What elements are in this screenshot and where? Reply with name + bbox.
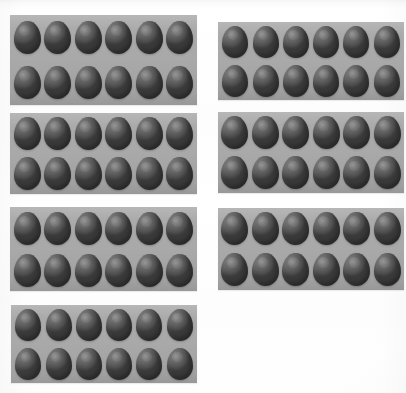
- egg: [374, 116, 401, 149]
- egg: [75, 254, 102, 287]
- egg: [222, 65, 248, 97]
- egg: [136, 254, 163, 287]
- egg: [106, 309, 132, 341]
- egg: [167, 309, 193, 341]
- egg-carton-5: [10, 207, 197, 291]
- egg: [283, 65, 309, 97]
- egg: [343, 156, 370, 189]
- egg-carton-2: [218, 22, 404, 100]
- egg: [313, 116, 340, 149]
- egg: [221, 212, 248, 245]
- egg: [166, 66, 193, 99]
- egg: [44, 212, 71, 245]
- egg: [252, 212, 279, 245]
- egg: [75, 157, 102, 190]
- egg: [313, 253, 340, 286]
- egg: [252, 116, 279, 149]
- egg: [105, 157, 132, 190]
- egg: [374, 65, 400, 97]
- egg: [75, 117, 102, 150]
- egg: [221, 156, 248, 189]
- egg: [105, 117, 132, 150]
- egg-row-top: [10, 207, 197, 249]
- egg: [46, 309, 72, 341]
- egg-row-bottom: [10, 249, 197, 291]
- egg-row-bottom: [10, 154, 197, 195]
- egg: [136, 157, 163, 190]
- egg: [222, 26, 248, 58]
- egg: [136, 66, 163, 99]
- egg: [105, 254, 132, 287]
- egg-row-top: [10, 113, 197, 154]
- egg-carton-6: [218, 208, 404, 290]
- egg: [374, 26, 400, 58]
- egg: [136, 117, 163, 150]
- egg: [14, 157, 41, 190]
- egg-row-bottom: [218, 249, 404, 290]
- egg: [374, 212, 401, 245]
- egg: [343, 65, 369, 97]
- egg-row-top: [11, 305, 197, 344]
- egg: [14, 212, 41, 245]
- egg: [105, 212, 132, 245]
- egg: [14, 66, 41, 99]
- egg: [75, 212, 102, 245]
- egg: [253, 26, 279, 58]
- egg: [343, 116, 370, 149]
- egg: [253, 65, 279, 97]
- egg: [282, 116, 309, 149]
- egg-row-top: [218, 112, 404, 153]
- egg: [136, 212, 163, 245]
- egg: [14, 117, 41, 150]
- egg: [76, 348, 102, 380]
- egg: [44, 21, 71, 54]
- egg: [44, 157, 71, 190]
- egg: [166, 117, 193, 150]
- egg: [105, 66, 132, 99]
- egg: [343, 26, 369, 58]
- egg-carton-3: [10, 113, 197, 194]
- egg: [106, 348, 132, 380]
- egg-row-top: [218, 208, 404, 249]
- egg: [282, 156, 309, 189]
- egg: [14, 254, 41, 287]
- egg: [136, 309, 162, 341]
- egg: [343, 212, 370, 245]
- egg: [166, 157, 193, 190]
- egg: [14, 21, 41, 54]
- egg: [166, 254, 193, 287]
- egg: [313, 65, 339, 97]
- egg: [313, 212, 340, 245]
- egg-cartons-scene: [0, 0, 406, 393]
- egg: [252, 253, 279, 286]
- egg-row-bottom: [10, 60, 197, 105]
- egg-carton-4: [218, 112, 404, 193]
- egg: [75, 21, 102, 54]
- egg: [44, 117, 71, 150]
- egg: [136, 348, 162, 380]
- egg: [15, 348, 41, 380]
- egg-row-top: [10, 15, 197, 60]
- egg: [374, 156, 401, 189]
- egg: [75, 66, 102, 99]
- egg: [313, 26, 339, 58]
- egg-row-bottom: [218, 61, 404, 100]
- egg: [76, 309, 102, 341]
- egg: [46, 348, 72, 380]
- egg: [221, 253, 248, 286]
- egg: [166, 212, 193, 245]
- egg: [136, 21, 163, 54]
- egg-row-top: [218, 22, 404, 61]
- egg: [15, 309, 41, 341]
- egg: [343, 253, 370, 286]
- egg: [221, 116, 248, 149]
- egg: [282, 253, 309, 286]
- egg: [374, 253, 401, 286]
- egg: [282, 212, 309, 245]
- egg: [167, 348, 193, 380]
- egg-row-bottom: [218, 153, 404, 194]
- egg-carton-1: [10, 15, 197, 105]
- egg-carton-7: [11, 305, 197, 383]
- egg: [44, 254, 71, 287]
- egg: [252, 156, 279, 189]
